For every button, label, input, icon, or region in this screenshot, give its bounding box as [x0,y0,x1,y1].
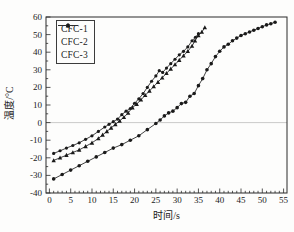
y-tick-label: -40 [30,188,42,198]
circle-marker-icon [197,84,201,88]
x-tick-label: 35 [194,195,204,205]
y-tick-label: -10 [30,135,42,145]
circle-marker-icon [60,173,64,177]
circle-marker-icon [154,74,157,77]
x-tick-label: 10 [87,195,97,205]
circle-marker-icon [214,55,218,59]
y-tick-label: -30 [30,170,42,180]
circle-marker-icon [186,45,189,48]
circle-marker-icon [252,28,256,32]
legend-item-cfc-2: CFC-2 [61,35,88,48]
circle-marker-icon [165,66,168,69]
circle-marker-icon [222,45,226,49]
circle-marker-icon [269,22,273,26]
triangle-marker-icon [90,141,94,145]
chart-canvas: 0510152025303540455055-40-30-20-10010203… [0,0,294,232]
circle-marker-icon [161,71,164,74]
circle-marker-icon [111,146,115,150]
circle-marker-icon [65,147,68,150]
circle-marker-icon [112,120,115,123]
circle-marker-icon [175,106,179,110]
circle-marker-icon [182,50,185,53]
y-tick-label: 50 [33,30,43,40]
x-tick-label: 0 [47,195,52,205]
x-tick-label: 50 [258,195,268,205]
circle-marker-icon [188,94,192,98]
circle-marker-icon [190,39,193,42]
circle-marker-icon [169,62,172,65]
triangle-marker-icon [203,25,207,29]
x-tick-label: 45 [237,195,247,205]
circle-marker-icon [141,92,144,95]
circle-marker-icon [173,58,176,61]
y-tick-label: 10 [33,100,43,110]
circle-marker-icon [231,39,235,43]
circle-marker-icon [120,143,124,147]
y-tick-label: -20 [30,153,42,163]
legend: CFC-1 CFC-2 CFC-3 [56,20,95,64]
circle-marker-icon [77,164,81,168]
y-tick-label: 40 [33,47,43,57]
circle-marker-icon [167,111,171,115]
circle-marker-icon [97,130,100,133]
x-axis: 0510152025303540455055 [47,189,288,206]
circle-marker-icon [154,122,158,126]
circle-marker-icon [71,144,74,147]
circle-marker-icon [94,155,98,159]
circle-marker-icon [78,141,81,144]
circle-marker-icon [84,138,87,141]
y-tick-label: 20 [33,82,43,92]
circle-marker-icon [52,177,56,181]
circle-marker-icon [243,32,247,36]
circle-marker-icon [86,160,90,164]
triangle-marker-icon [77,148,81,152]
legend-label-cfc-2: CFC-2 [61,37,88,47]
circle-marker-icon [209,62,213,66]
circle-marker-icon [146,86,149,89]
circle-marker-icon [192,92,196,96]
circle-marker-icon [261,25,265,29]
circle-marker-icon [184,101,188,105]
x-tick-label: 55 [279,195,289,205]
y-tick-label: 60 [33,12,43,22]
x-tick-label: 15 [109,195,119,205]
circle-marker-icon [239,34,243,38]
circle-marker-icon [201,77,205,81]
y-tick-label: 0 [38,118,43,128]
circle-marker-icon [90,134,93,137]
circle-marker-icon [103,125,106,128]
x-tick-label: 30 [173,195,183,205]
y-axis: -40-30-20-100102030405060 [30,12,51,198]
circle-marker-icon [265,23,269,27]
circle-marker-icon [248,30,252,34]
y-axis-title: 温度/°C [1,71,15,135]
legend-item-cfc-3: CFC-3 [61,48,88,61]
x-tick-label: 20 [130,195,140,205]
legend-marker-triangle-icon [57,21,79,30]
circle-marker-icon [256,27,260,31]
figure: 0510152025303540455055-40-30-20-10010203… [0,0,294,232]
triangle-marker-icon [83,144,87,148]
x-axis-title: 时间/s [46,207,287,222]
circle-marker-icon [129,138,133,142]
circle-marker-icon [158,118,162,122]
circle-marker-icon [163,114,167,118]
circle-marker-icon [137,134,141,138]
circle-marker-icon [124,110,127,113]
x-tick-label: 25 [151,195,161,205]
circle-marker-icon [226,42,230,46]
circle-marker-icon [178,53,181,56]
x-tick-label: 5 [68,195,73,205]
circle-marker-icon [218,50,222,54]
circle-marker-icon [273,20,277,24]
triangle-marker-icon [190,44,194,48]
circle-marker-icon [116,117,119,120]
circle-marker-icon [205,68,209,72]
y-tick-label: 30 [33,65,43,75]
circle-marker-icon [103,151,107,155]
circle-marker-icon [150,80,153,83]
x-tick-label: 40 [215,195,225,205]
circle-marker-icon [52,152,55,155]
legend-label-cfc-3: CFC-3 [61,50,88,60]
circle-marker-icon [158,69,161,72]
